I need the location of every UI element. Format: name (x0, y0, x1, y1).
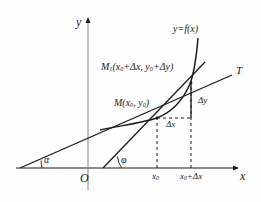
angle-alpha-label: α (44, 155, 49, 165)
point-m1 (190, 82, 193, 85)
delta-x-label: Δx (166, 120, 175, 129)
point-m-open: M(x (114, 97, 130, 108)
tick-x0dx-rest: +Δx (187, 171, 202, 181)
point-m-close: ) (146, 97, 149, 108)
angle-alpha-arc (41, 161, 42, 169)
point-m1-label: M1(x0+Δx, y0+Δy) (101, 62, 173, 73)
y-axis-label: y (76, 16, 81, 28)
point-m-mid: , y (133, 97, 142, 108)
origin-label: O (80, 172, 89, 184)
tick-label-x0: x0 (152, 172, 159, 182)
x-axis-label: x (240, 170, 245, 182)
secant-line (103, 62, 205, 168)
angle-phi-label: φ (121, 155, 127, 165)
point-m1-dx-part: +Δx, y (123, 61, 150, 72)
delta-y-label: Δy (198, 96, 207, 105)
point-m1-dy-part: +Δy) (153, 61, 173, 72)
tick-label-x0-plus-dx: x0+Δx (180, 172, 202, 182)
tick-x0-subscript: 0 (156, 175, 159, 181)
point-m (156, 117, 159, 120)
tangent-label: T (236, 65, 242, 76)
point-m-label: M(x0, y0) (114, 98, 149, 109)
curve-label: y=f(x) (173, 24, 198, 34)
derivative-diagram: y x O y=f(x) T M1(x0+Δx, y0+Δy) M(x0, y0… (0, 0, 261, 202)
